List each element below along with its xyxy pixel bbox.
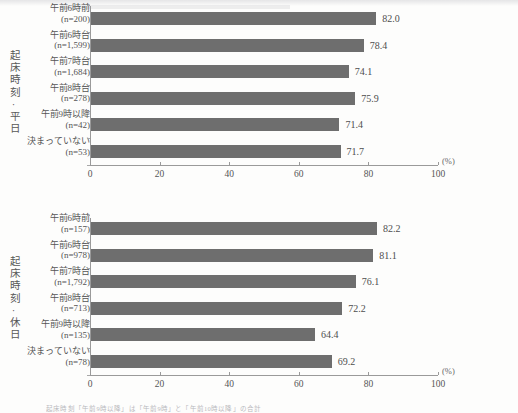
y-axis-tick-holiday-2 — [87, 268, 90, 269]
category-label-count: (n=278) — [14, 93, 90, 104]
bar-value-label-weekday-3: 75.9 — [361, 93, 379, 104]
category-label-holiday-3: 午前8時台(n=713) — [14, 293, 90, 314]
category-label-count: (n=135) — [14, 330, 90, 341]
y-axis-tick-weekday-4 — [87, 111, 90, 112]
bar-value-label-weekday-5: 71.7 — [347, 146, 365, 157]
bar-value-label-weekday-4: 71.4 — [345, 119, 363, 130]
y-axis-tick-weekday-2 — [87, 58, 90, 59]
category-label-count: (n=1,599) — [14, 40, 90, 51]
bar-weekday-4 — [91, 118, 339, 131]
x-axis-tick-label-weekday-3: 60 — [294, 169, 304, 179]
x-axis-tick-label-weekday-1: 20 — [155, 169, 165, 179]
category-label-count: (n=53) — [14, 147, 90, 158]
y-axis-tick-holiday-1 — [87, 242, 90, 243]
category-label-count: (n=713) — [14, 303, 90, 314]
x-axis-tick-holiday-3 — [299, 372, 300, 375]
category-label-count: (n=42) — [14, 120, 90, 131]
y-axis-tick-holiday-3 — [87, 295, 90, 296]
category-label-count: (n=1,684) — [14, 67, 90, 78]
category-label-count: (n=78) — [14, 357, 90, 368]
category-label-text: 午前9時以降 — [14, 319, 90, 330]
category-label-holiday-1: 午前6時台(n=978) — [14, 240, 90, 261]
x-axis-tick-holiday-5 — [438, 372, 439, 375]
category-label-text: 午前9時以降 — [14, 109, 90, 120]
category-label-weekday-3: 午前8時台(n=278) — [14, 83, 90, 104]
x-axis-tick-weekday-0 — [90, 162, 91, 165]
bar-value-label-holiday-5: 69.2 — [338, 356, 356, 367]
x-axis-tick-label-weekday-5: 100 — [431, 169, 445, 179]
bar-value-label-weekday-1: 78.4 — [370, 40, 388, 51]
x-axis-tick-label-holiday-1: 20 — [155, 379, 165, 389]
x-axis-tick-label-holiday-0: 0 — [88, 379, 93, 389]
x-axis-tick-label-holiday-2: 40 — [224, 379, 234, 389]
x-axis-line-holiday — [90, 375, 438, 376]
category-label-count: (n=1,792) — [14, 277, 90, 288]
category-label-text: 午前7時台 — [14, 266, 90, 277]
x-axis-tick-weekday-4 — [368, 162, 369, 165]
x-axis-tick-holiday-2 — [229, 372, 230, 375]
bar-value-label-weekday-0: 82.0 — [382, 13, 400, 24]
category-label-text: 決まっていない — [14, 346, 90, 357]
x-axis-tick-label-holiday-3: 60 — [294, 379, 304, 389]
chart-page: 起床時刻·平日 午前6時前(n=200)午前6時台(n=1,599)午前7時台(… — [0, 0, 518, 413]
category-label-count: (n=200) — [14, 14, 90, 25]
category-label-text: 午前8時台 — [14, 83, 90, 94]
category-label-text: 午前6時前 — [14, 213, 90, 224]
bar-holiday-2 — [91, 275, 356, 288]
x-axis-tick-label-holiday-4: 80 — [364, 379, 374, 389]
x-axis-tick-holiday-0 — [90, 372, 91, 375]
category-label-text: 午前6時台 — [14, 240, 90, 251]
x-axis-unit-label-holiday: (%) — [442, 366, 455, 376]
category-label-weekday-2: 午前7時台(n=1,684) — [14, 56, 90, 77]
x-axis-tick-label-weekday-2: 40 — [224, 169, 234, 179]
bar-holiday-3 — [91, 302, 342, 315]
chart-holiday: 起床時刻·休日 午前6時前(n=157)午前6時台(n=978)午前7時台(n=… — [0, 216, 518, 396]
x-axis-tick-label-holiday-5: 100 — [431, 379, 445, 389]
x-axis-tick-holiday-4 — [368, 372, 369, 375]
category-label-count: (n=157) — [14, 224, 90, 235]
x-axis-tick-holiday-1 — [160, 372, 161, 375]
category-label-weekday-1: 午前6時台(n=1,599) — [14, 30, 90, 51]
x-axis-tick-label-weekday-0: 0 — [88, 169, 93, 179]
chart-weekday: 起床時刻·平日 午前6時前(n=200)午前6時台(n=1,599)午前7時台(… — [0, 4, 518, 200]
y-axis-tick-holiday-0 — [87, 215, 90, 216]
bar-weekday-3 — [91, 92, 355, 105]
bar-weekday-1 — [91, 39, 364, 52]
category-label-holiday-2: 午前7時台(n=1,792) — [14, 266, 90, 287]
x-axis-tick-label-weekday-4: 80 — [364, 169, 374, 179]
bar-value-label-holiday-1: 81.1 — [379, 250, 397, 261]
y-axis-line-weekday — [90, 6, 91, 165]
x-axis-tick-weekday-1 — [160, 162, 161, 165]
category-label-text: 午前6時台 — [14, 30, 90, 41]
bar-weekday-2 — [91, 65, 349, 78]
category-label-holiday-4: 午前9時以降(n=135) — [14, 319, 90, 340]
bar-weekday-0 — [91, 12, 376, 25]
bar-holiday-1 — [91, 249, 373, 262]
y-axis-tick-weekday-5 — [87, 138, 90, 139]
y-axis-tick-holiday-4 — [87, 321, 90, 322]
y-axis-tick-weekday-1 — [87, 32, 90, 33]
category-label-text: 決まっていない — [14, 136, 90, 147]
bar-holiday-4 — [91, 328, 315, 341]
category-label-text: 午前7時台 — [14, 56, 90, 67]
y-axis-line-holiday — [90, 218, 91, 375]
bar-value-label-weekday-2: 74.1 — [355, 66, 373, 77]
bar-weekday-5 — [91, 145, 341, 158]
category-label-holiday-0: 午前6時前(n=157) — [14, 213, 90, 234]
y-axis-tick-weekday-3 — [87, 85, 90, 86]
x-axis-unit-label-weekday: (%) — [442, 156, 455, 166]
category-label-weekday-0: 午前6時前(n=200) — [14, 3, 90, 24]
bar-value-label-holiday-3: 72.2 — [348, 303, 366, 314]
x-axis-line-weekday — [90, 165, 438, 166]
category-label-weekday-5: 決まっていない(n=53) — [14, 136, 90, 157]
bar-value-label-holiday-2: 76.1 — [362, 276, 380, 287]
category-label-count: (n=978) — [14, 250, 90, 261]
x-axis-tick-weekday-2 — [229, 162, 230, 165]
footnote: 起床時刻「午前9時以降」は「午前9時」と「午前10時以降」の合計 — [46, 403, 261, 412]
bar-holiday-5 — [91, 355, 332, 368]
bar-holiday-0 — [91, 222, 377, 235]
y-axis-tick-holiday-5 — [87, 348, 90, 349]
category-label-holiday-5: 決まっていない(n=78) — [14, 346, 90, 367]
bar-value-label-holiday-4: 64.4 — [321, 329, 339, 340]
x-axis-tick-weekday-3 — [299, 162, 300, 165]
